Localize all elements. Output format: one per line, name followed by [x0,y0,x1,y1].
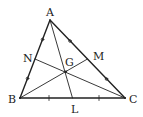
label-l: L [71,103,79,116]
vertex-c-point [124,97,126,99]
label-c: C [129,93,137,106]
label-n: N [23,52,33,65]
median-cn [35,59,125,98]
triangle-median-diagram: A B C N M L G [0,0,143,117]
vertex-b-point [19,97,21,99]
label-m: M [93,50,104,63]
label-g: G [65,56,74,69]
label-a: A [45,6,55,19]
centroid-point [65,70,68,73]
label-b: B [8,93,16,106]
